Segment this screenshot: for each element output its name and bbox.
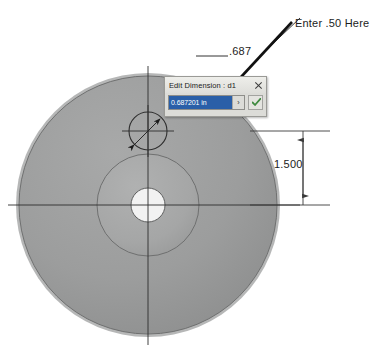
dimension-label-1500: 1.500 <box>274 158 303 170</box>
dimension-input-value[interactable]: 0.687201 in <box>169 96 232 109</box>
annotation-note: Enter .50 Here <box>295 17 369 29</box>
close-icon[interactable] <box>253 80 264 91</box>
dialog-title: Edit Dimension : d1 <box>169 81 253 90</box>
part-drawing <box>0 0 376 351</box>
dimension-input[interactable]: 0.687201 in › <box>168 95 245 110</box>
check-icon <box>252 98 261 107</box>
cad-drawing-canvas: .687 1.500 Enter .50 Here Edit Dimension… <box>0 0 376 351</box>
accept-button[interactable] <box>248 95 263 110</box>
dialog-body: 0.687201 in › <box>165 93 266 113</box>
edit-dimension-dialog[interactable]: Edit Dimension : d1 0.687201 in › <box>164 76 267 117</box>
dimension-label-687: .687 <box>229 45 251 57</box>
dialog-titlebar[interactable]: Edit Dimension : d1 <box>165 77 266 93</box>
chevron-right-icon[interactable]: › <box>232 96 244 109</box>
